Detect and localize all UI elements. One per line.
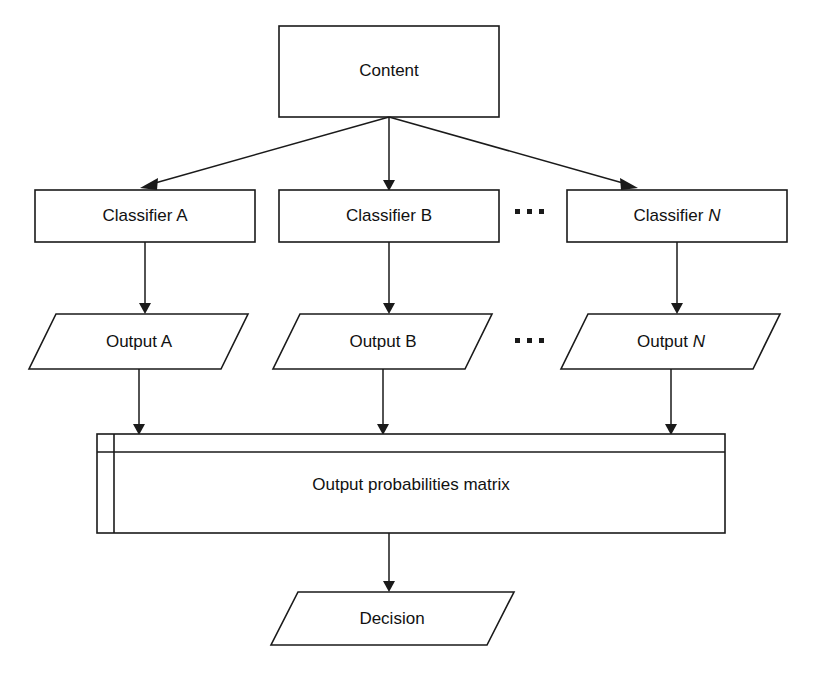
ellipsis-classifier-row xyxy=(515,209,544,214)
node-classifier-a[interactable]: Classifier A xyxy=(35,190,255,242)
ellipsis-dot-1 xyxy=(515,338,520,343)
output-a-label: Output A xyxy=(106,332,173,351)
ellipsis-output-row xyxy=(515,338,544,343)
classifier-a-label: Classifier A xyxy=(102,206,188,225)
node-classifier-n[interactable]: Classifier N xyxy=(567,190,787,242)
node-output-probabilities-matrix[interactable]: Output probabilities matrix xyxy=(97,434,725,533)
node-decision[interactable]: Decision xyxy=(271,592,514,645)
node-content[interactable]: Content xyxy=(279,26,499,117)
decision-label: Decision xyxy=(359,609,424,628)
arrowhead-icon xyxy=(139,303,151,314)
matrix-label: Output probabilities matrix xyxy=(312,475,510,494)
ellipsis-dot-3 xyxy=(539,209,544,214)
classifier-n-label-prefix: Classifier xyxy=(634,206,709,225)
ellipsis-dot-3 xyxy=(539,338,544,343)
output-n-label-prefix: Output xyxy=(637,332,693,351)
node-classifier-b[interactable]: Classifier B xyxy=(279,190,499,242)
node-output-b[interactable]: Output B xyxy=(273,314,492,369)
edge-content-to-classifier-b xyxy=(383,117,395,191)
arrowhead-icon xyxy=(140,178,158,190)
edge-output-b-to-matrix xyxy=(377,369,389,435)
output-n-label: Output N xyxy=(637,332,706,351)
edge-output-n-to-matrix xyxy=(665,369,677,435)
arrowhead-icon xyxy=(620,178,638,190)
edge-matrix-to-decision xyxy=(383,533,395,592)
ellipsis-dot-1 xyxy=(515,209,520,214)
classifier-n-label: Classifier N xyxy=(634,206,722,225)
node-output-a[interactable]: Output A xyxy=(29,314,248,369)
classifier-n-label-italic: N xyxy=(708,206,721,225)
arrowhead-icon xyxy=(383,581,395,592)
edge-output-a-to-matrix xyxy=(133,369,145,435)
arrowhead-icon xyxy=(383,303,395,314)
ellipsis-dot-2 xyxy=(527,338,532,343)
edge-classifier-b-to-output-b xyxy=(383,242,395,314)
edge-classifier-a-to-output-a xyxy=(139,242,151,314)
edge-content-to-classifier-n xyxy=(389,117,638,190)
edge-line xyxy=(389,117,630,185)
flowchart-canvas: Content Classifier A Classifier B xyxy=(0,0,820,683)
ensemble-classifier-flowchart: Content Classifier A Classifier B xyxy=(0,0,820,683)
edge-classifier-n-to-output-n xyxy=(671,242,683,314)
arrowhead-icon xyxy=(671,303,683,314)
ellipsis-dot-2 xyxy=(527,209,532,214)
content-label: Content xyxy=(359,61,419,80)
classifier-b-label: Classifier B xyxy=(346,206,432,225)
output-n-label-italic: N xyxy=(693,332,706,351)
output-b-label: Output B xyxy=(349,332,416,351)
edge-content-to-classifier-a xyxy=(140,117,389,190)
edge-line xyxy=(148,117,389,185)
node-output-n[interactable]: Output N xyxy=(561,314,780,369)
